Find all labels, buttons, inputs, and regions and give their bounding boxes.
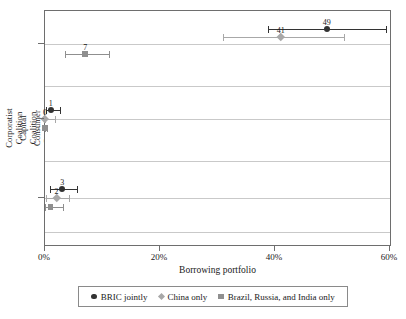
error-bar-cap [109, 51, 110, 58]
x-axis-tick-label: 60% [369, 252, 406, 262]
plot-area: 491341027 [44, 10, 391, 246]
x-axis-tick-label: 0% [24, 252, 64, 262]
error-bar-cap [63, 204, 64, 211]
error-bar-cap [65, 51, 66, 58]
legend-item-bric-jointly[interactable]: BRIC jointly [91, 292, 147, 302]
gridline [45, 86, 390, 87]
y-axis-tick [38, 197, 44, 198]
y-axis-tick [38, 118, 44, 119]
square-marker-icon [218, 294, 224, 300]
legend-item-china-only[interactable]: China only [159, 292, 208, 302]
x-axis-tick [389, 246, 390, 251]
x-axis-title: Borrowing portfolio [44, 265, 391, 275]
legend-label: Brazil, Russia, and India only [228, 292, 335, 302]
error-bar-cap [60, 107, 61, 114]
gridline [45, 161, 390, 162]
circle-marker-icon [91, 294, 97, 300]
gridline [45, 198, 390, 199]
error-bar-cap [55, 116, 56, 123]
y-label-line1: Capital [18, 10, 28, 246]
error-bar-cap [45, 204, 46, 211]
legend-label: BRIC jointly [101, 292, 148, 302]
y-axis-tick [38, 43, 44, 44]
legend-item-brazil-russia-india-only[interactable]: Brazil, Russia, and India only [218, 292, 334, 302]
diamond-marker-icon [157, 293, 164, 300]
x-axis-tick [44, 246, 45, 251]
data-point-value-label: 2 [42, 187, 72, 196]
error-bar-cap [344, 34, 345, 41]
data-point-value-label: 49 [312, 18, 342, 27]
data-point-value-label: 7 [70, 43, 100, 52]
x-axis-tick [159, 246, 160, 251]
legend-label: China only [168, 292, 208, 302]
data-point-value-label: 0 [30, 108, 60, 117]
data-point-value-label: 1 [36, 99, 66, 108]
error-bar-cap [223, 34, 224, 41]
x-axis-tick-label: 20% [139, 252, 179, 262]
gridline [45, 232, 390, 233]
y-label-line1: Consumer [32, 10, 42, 246]
data-point-value-label: 3 [47, 178, 77, 187]
x-axis-tick-label: 40% [254, 252, 294, 262]
error-bar-cap [69, 195, 70, 202]
error-bar-cap [46, 195, 47, 202]
y-label-line1: Corporatist [4, 10, 14, 246]
data-point-marker[interactable] [48, 204, 54, 210]
error-bar-cap [77, 186, 78, 193]
legend: BRIC jointly China only Brazil, Russia, … [78, 286, 348, 307]
x-axis-tick [274, 246, 275, 251]
chart-figure: Corporatist Coalition Capital Coalition … [0, 0, 406, 319]
data-point-value-label: 41 [266, 26, 296, 35]
data-point-marker[interactable] [42, 125, 48, 131]
y-axis: Corporatist Coalition Capital Coalition … [0, 10, 44, 246]
error-bar-cap [386, 26, 387, 33]
gridline [45, 119, 390, 120]
